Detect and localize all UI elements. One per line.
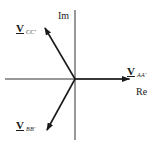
vector-aa-subscript: AA' xyxy=(137,72,147,78)
vector-bb-label: VBB' xyxy=(16,116,35,132)
vector-cc-subscript: CC' xyxy=(26,29,36,35)
vector-aa-name: V xyxy=(127,65,135,77)
vector-aa-label: VAA' xyxy=(127,62,146,78)
real-axis-label: Re xyxy=(136,87,147,97)
vector-bb-name: V xyxy=(16,119,24,131)
vector-cc-name: V xyxy=(16,22,24,34)
vector-bb-subscript: BB' xyxy=(26,126,36,132)
vector-cc-label: VCC' xyxy=(16,19,36,35)
vector-cc-arrow xyxy=(45,28,75,79)
imag-axis-label: Im xyxy=(58,11,69,21)
vector-bb-arrow xyxy=(47,79,75,130)
